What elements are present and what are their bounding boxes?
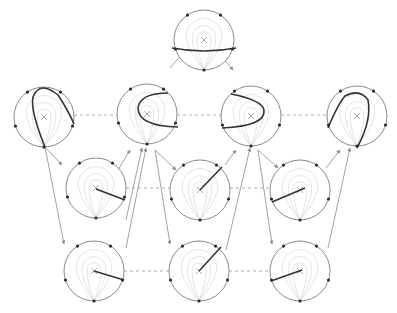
boundary-dot bbox=[249, 144, 252, 147]
graph-diagram bbox=[0, 0, 397, 313]
arrow bbox=[118, 150, 130, 170]
boundary-dot bbox=[278, 123, 281, 126]
boundary-dot bbox=[129, 88, 132, 91]
boundary-dot bbox=[174, 121, 177, 124]
node-r1a bbox=[14, 87, 74, 149]
boundary-dot bbox=[59, 91, 62, 94]
circle-nodes bbox=[14, 10, 387, 303]
boundary-dot bbox=[227, 197, 230, 200]
boundary-dot bbox=[233, 90, 236, 93]
boundary-dot bbox=[214, 245, 217, 248]
boundary-dot bbox=[170, 197, 173, 200]
boundary-dot bbox=[76, 245, 79, 248]
boundary-dot bbox=[215, 164, 218, 167]
boundary-dot bbox=[355, 144, 358, 147]
boundary-dot bbox=[197, 299, 200, 302]
boundary-dot bbox=[282, 245, 285, 248]
boundary-dot bbox=[226, 278, 229, 281]
boundary-dot bbox=[145, 142, 148, 145]
boundary-dot bbox=[26, 91, 29, 94]
node-r2a bbox=[66, 158, 126, 220]
boundary-dot bbox=[111, 162, 114, 165]
boundary-dot bbox=[78, 162, 81, 165]
arrow bbox=[45, 147, 64, 244]
node-r1d bbox=[327, 86, 387, 148]
boundary-dot bbox=[298, 299, 301, 302]
boundary-dot bbox=[117, 121, 120, 124]
boundary-dot bbox=[202, 68, 205, 71]
boundary-dot bbox=[162, 88, 165, 91]
node-r3a bbox=[64, 241, 124, 303]
boundary-dot bbox=[270, 278, 273, 281]
boundary-dot bbox=[327, 197, 330, 200]
boundary-dot bbox=[66, 195, 69, 198]
boundary-dot bbox=[231, 47, 234, 50]
arrow bbox=[225, 150, 236, 165]
boundary-dot bbox=[219, 14, 222, 17]
boundary-dot bbox=[123, 195, 126, 198]
boundary-dot bbox=[298, 218, 301, 221]
arrow bbox=[258, 150, 278, 168]
node-r3b bbox=[169, 241, 229, 303]
node-r2c bbox=[270, 160, 330, 222]
arrow bbox=[326, 150, 340, 168]
arrow bbox=[155, 150, 170, 244]
node-r1c bbox=[221, 86, 281, 148]
node-r3c bbox=[270, 241, 330, 303]
boundary-dot bbox=[94, 216, 97, 219]
boundary-dot bbox=[327, 123, 330, 126]
boundary-dot bbox=[221, 123, 224, 126]
diagram-canvas bbox=[0, 0, 397, 313]
boundary-dot bbox=[315, 245, 318, 248]
boundary-dot bbox=[121, 278, 124, 281]
boundary-dot bbox=[270, 197, 273, 200]
boundary-dot bbox=[174, 47, 177, 50]
boundary-dot bbox=[71, 124, 74, 127]
boundary-dot bbox=[282, 164, 285, 167]
boundary-dot bbox=[186, 14, 189, 17]
boundary-dot bbox=[315, 164, 318, 167]
boundary-dot bbox=[169, 278, 172, 281]
arrow bbox=[126, 148, 146, 248]
boundary-dot bbox=[384, 123, 387, 126]
boundary-dot bbox=[327, 278, 330, 281]
boundary-dot bbox=[181, 245, 184, 248]
boundary-dot bbox=[198, 218, 201, 221]
boundary-dot bbox=[372, 90, 375, 93]
arrow-connectors bbox=[45, 54, 350, 250]
boundary-dot bbox=[266, 90, 269, 93]
boundary-dot bbox=[42, 145, 45, 148]
arrow bbox=[328, 148, 350, 248]
node-r1b bbox=[117, 84, 178, 146]
arrow bbox=[155, 150, 176, 170]
arrow bbox=[258, 150, 272, 244]
boundary-dot bbox=[339, 90, 342, 93]
boundary-dot bbox=[64, 278, 67, 281]
boundary-dot bbox=[109, 245, 112, 248]
node-r2b bbox=[170, 160, 230, 222]
boundary-dot bbox=[92, 299, 95, 302]
boundary-dot bbox=[182, 164, 185, 167]
boundary-dot bbox=[14, 124, 17, 127]
arrow bbox=[45, 147, 62, 165]
